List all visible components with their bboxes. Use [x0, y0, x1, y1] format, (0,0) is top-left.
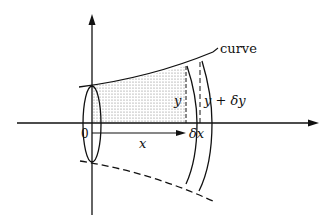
solid-of-revolution-diagram: curve 0 x δx y y + δy: [0, 0, 333, 222]
diagram-canvas: [0, 0, 333, 222]
y-plus-delta-y-label: y + δy: [204, 94, 246, 107]
x-axis-arrowhead: [308, 120, 319, 127]
delta-x-label: δx: [189, 127, 204, 140]
curve-label-leader: [213, 48, 218, 52]
x-label: x: [139, 137, 146, 150]
origin-label: 0: [81, 128, 89, 140]
x-distance-arrowhead: [176, 130, 186, 136]
y-axis-arrowhead: [89, 14, 96, 25]
strip-left-arc: [186, 66, 197, 184]
y-label: y: [174, 94, 181, 107]
curve-label: curve: [220, 42, 257, 55]
shaded-area: [92, 66, 186, 123]
lower-dashed-curve: [80, 161, 215, 202]
